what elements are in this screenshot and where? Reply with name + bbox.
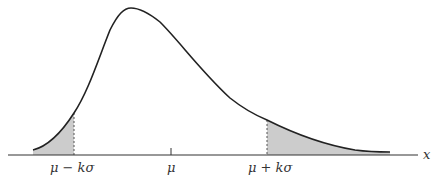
x-axis-label: x [423,148,430,161]
mu-minus-k-sigma-label: μ − kσ [50,161,94,174]
mu-plus-k-sigma-label: μ + kσ [248,161,292,174]
right-tail-shade [267,120,390,155]
density-curve [33,8,390,152]
skewed-density-diagram [0,0,436,181]
mu-label: μ [167,161,175,174]
